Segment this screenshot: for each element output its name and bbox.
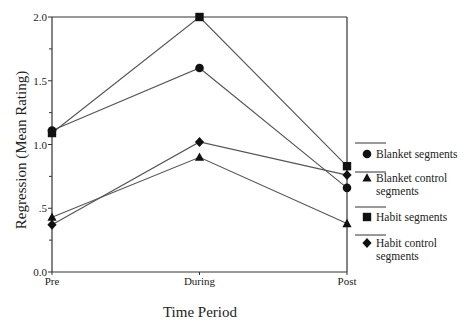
legend-diamond-icon [362,238,371,248]
y-tick-label: 1.5 [33,75,47,87]
series-markers [47,13,351,230]
triangle-marker-icon [195,152,204,160]
y-axis-title: Regression (Mean Rating) [13,71,30,229]
legend-square-icon [363,213,371,221]
circle-marker-icon [195,64,204,73]
series-line-triangle [52,157,347,223]
line-chart: 0.0.51.01.52.0 PreDuringPost Regression … [0,0,468,324]
legend-circle-icon [363,150,372,159]
x-tick-label: During [184,275,216,287]
square-marker-icon [48,129,56,137]
x-tick-label: Pre [45,275,60,287]
x-tick-label: Post [338,275,357,287]
legend: Blanket segmentsBlanket controlsegmentsH… [355,143,458,263]
legend-label: segments [376,185,419,198]
diamond-marker-icon [342,170,351,180]
triangle-marker-icon [47,212,56,220]
diamond-marker-icon [47,220,56,230]
legend-label: segments [376,250,419,263]
y-tick-label: 2.0 [33,11,47,23]
legend-label: Habit control [376,237,437,249]
series-line-circle [52,68,347,188]
series-lines [52,17,347,225]
triangle-marker-icon [342,219,351,227]
legend-label: Blanket segments [376,148,458,161]
x-axis-title: Time Period [163,304,238,320]
y-axis-ticks: 0.0.51.01.52.0 [33,11,52,278]
circle-marker-icon [343,184,352,193]
legend-label: Habit segments [376,211,448,224]
square-marker-icon [195,13,203,21]
diamond-marker-icon [195,137,204,147]
legend-triangle-icon [362,173,371,181]
legend-label: Blanket control [376,172,447,184]
x-axis-ticks: PreDuringPost [45,272,357,287]
square-marker-icon [343,162,351,170]
y-tick-label: .5 [39,202,48,214]
y-tick-label: 1.0 [33,139,47,151]
